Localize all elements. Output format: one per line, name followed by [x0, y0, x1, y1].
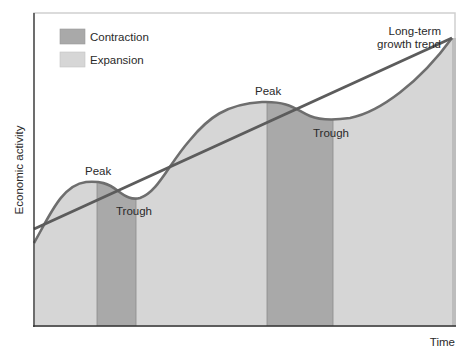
annotation-trend-line-1: Long-term [389, 25, 441, 37]
business-cycle-chart: Contraction Expansion Peak Trough Peak T… [0, 0, 473, 354]
annotation-trend-line-2: growth trend [377, 38, 441, 50]
x-axis-label: Time [430, 336, 455, 348]
annotation-peak-1: Peak [85, 165, 111, 177]
annotation-peak-2: Peak [255, 85, 281, 97]
right-edge [452, 38, 456, 326]
y-axis-label: Economic activity [13, 125, 25, 214]
legend-swatch-expansion [60, 52, 85, 67]
legend-label-expansion: Expansion [90, 54, 144, 66]
annotation-trough-1: Trough [116, 205, 152, 217]
legend-label-contraction: Contraction [90, 31, 149, 43]
legend-swatch-contraction [60, 29, 85, 44]
annotation-trough-2: Trough [313, 127, 349, 139]
